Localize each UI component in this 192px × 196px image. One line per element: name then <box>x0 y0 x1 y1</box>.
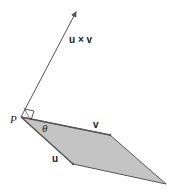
label-u: u <box>52 153 58 164</box>
label-cross-product: u × v <box>69 34 93 45</box>
label-point-p: P <box>9 113 17 125</box>
label-theta: θ <box>42 122 48 134</box>
label-v: v <box>93 119 99 130</box>
cross-product-diagram: u × v v u θ P <box>0 0 192 196</box>
diagram-svg: u × v v u θ P <box>0 0 192 196</box>
vector-cross-product <box>21 12 76 117</box>
vector-u-tip <box>72 163 75 166</box>
vector-v-tip <box>109 134 112 137</box>
